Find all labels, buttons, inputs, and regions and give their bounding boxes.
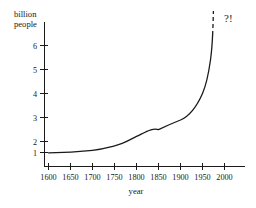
y-tick-label-1: 1 [33, 149, 37, 158]
x-tick-label-1750: 1750 [106, 173, 122, 182]
y-axis-label-line1: billion [14, 9, 37, 19]
population-growth-chart: billion people 6 5 4 3 2 1 [0, 0, 256, 208]
y-tick-label-4: 4 [33, 90, 37, 99]
x-tick-label-1650: 1650 [62, 173, 78, 182]
x-axis-label: year [129, 186, 144, 196]
y-axis-tick-labels: 6 5 4 3 2 1 [33, 42, 37, 158]
y-tick-label-3: 3 [33, 114, 37, 123]
population-curve [49, 35, 213, 153]
x-tick-label-1700: 1700 [84, 173, 100, 182]
x-tick-label-1850: 1850 [150, 173, 166, 182]
x-tick-label-1950: 1950 [194, 173, 210, 182]
y-tick-label-5: 5 [33, 66, 37, 75]
x-tick-label-2000: 2000 [216, 173, 232, 182]
x-tick-label-1900: 1900 [172, 173, 188, 182]
y-tick-label-2: 2 [33, 138, 37, 147]
chart-canvas: billion people 6 5 4 3 2 1 [0, 0, 256, 208]
x-tick-label-1600: 1600 [40, 173, 56, 182]
y-tick-label-6: 6 [33, 42, 37, 51]
population-projection-dashed [213, 11, 214, 35]
x-tick-label-1800: 1800 [128, 173, 144, 182]
projection-annotation: ?! [224, 12, 233, 24]
y-axis-label-line2: people [14, 19, 37, 29]
x-axis-tick-labels: 1600 1650 1700 1750 1800 1850 1900 1950 … [40, 173, 232, 182]
